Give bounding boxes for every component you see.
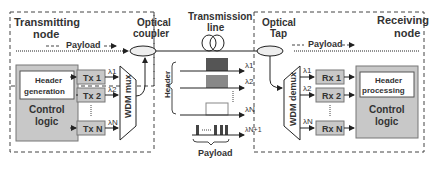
- spectrum-lambda-2: λ2: [245, 77, 254, 86]
- rx-lambda-n: λN: [303, 117, 313, 126]
- optical-tap-label: Optical: [262, 17, 296, 28]
- header-processing-label: Header: [375, 76, 402, 85]
- rx-control-logic-label: Control: [369, 104, 405, 115]
- tx-n-label: Tx N: [83, 124, 103, 134]
- header-bar-lambda-2: [206, 75, 228, 88]
- optical-network-diagram: Transmitting node Optical coupler Transm…: [0, 0, 438, 171]
- transmitting-node-title-2: node: [33, 28, 59, 40]
- header-processing-label-2: processing: [362, 86, 405, 95]
- receiving-node-title: Receiving: [377, 14, 429, 26]
- fiber-coil-icon: [202, 35, 216, 51]
- rx-lambda-1: λ1: [303, 66, 312, 75]
- tx-lambda-2: λ2: [108, 85, 117, 94]
- wdm-demux-label: WDM demux: [288, 72, 298, 126]
- header-bar-lambda-1: [206, 58, 228, 71]
- optical-coupler-label: Optical: [137, 17, 171, 28]
- transmission-line-label: Transmission: [188, 11, 252, 22]
- tx-control-logic-label-2: logic: [35, 116, 59, 127]
- optical-tap-label-2: Tap: [270, 28, 287, 39]
- spectrum-lambda-n: λN: [245, 105, 255, 114]
- rx-control-logic-label-2: logic: [375, 116, 399, 127]
- tx-payload-label: Payload: [66, 40, 101, 50]
- spectrum-payload-label: Payload: [198, 148, 233, 158]
- rx-2-label: Rx 2: [322, 91, 341, 101]
- transmitting-node-title: Transmitting: [14, 16, 80, 28]
- spectrum-header-label: Header: [163, 71, 172, 98]
- tx-lambda-n: λN: [108, 118, 118, 127]
- rx-n-label: Rx N: [322, 124, 343, 134]
- payload-brace: [193, 139, 229, 145]
- header-bar-lambda-n: [206, 103, 228, 115]
- header-generation-label: Header: [35, 76, 62, 85]
- transmission-line-label-2: line: [207, 22, 225, 33]
- rx-lambda-2: λ2: [303, 84, 312, 93]
- rx-payload-label: Payload: [308, 39, 343, 49]
- optical-coupler: [130, 46, 156, 56]
- tx-control-logic-label: Control: [29, 104, 65, 115]
- receiving-node-title-2: node: [394, 27, 420, 39]
- spectrum-lambda-1: λ1: [245, 61, 254, 70]
- optical-tap: [257, 46, 283, 56]
- tx-1-label: Tx 1: [83, 73, 101, 83]
- header-generation-label-2: generation: [24, 87, 65, 96]
- wdm-mux-label: WDM mux: [123, 75, 133, 119]
- rx-1-label: Rx 1: [322, 73, 341, 83]
- tx-2-label: Tx 2: [83, 91, 101, 101]
- optical-coupler-label-2: coupler: [133, 28, 169, 39]
- tx-lambda-1: λ1: [108, 67, 117, 76]
- spectrum-lambda-n1: λN+1: [245, 126, 262, 133]
